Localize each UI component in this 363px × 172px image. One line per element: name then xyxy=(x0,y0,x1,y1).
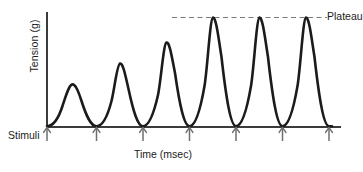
stimulus-arrow-3 xyxy=(140,128,147,141)
stimulus-arrow-4 xyxy=(186,128,193,141)
stimulus-arrow-1 xyxy=(44,128,51,141)
stimulus-arrow-5 xyxy=(233,128,240,141)
stimulus-arrow-6 xyxy=(279,128,286,141)
stimuli-label: Stimuli xyxy=(8,129,40,141)
stimulus-arrow-2 xyxy=(93,128,100,141)
tension-curve xyxy=(47,18,332,127)
y-axis-label: Tension (g) xyxy=(28,2,40,90)
stimulus-arrow-7 xyxy=(326,128,333,141)
x-axis-label: Time (msec) xyxy=(134,148,192,160)
plateau-label: Plateau xyxy=(327,10,363,22)
stimuli-arrow-group xyxy=(44,128,333,141)
